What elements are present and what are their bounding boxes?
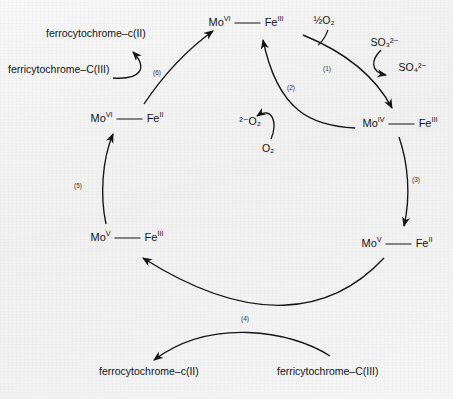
node-mo-symbol: Mo [362,117,377,129]
node-mo5-fe2: MoVFeII [362,238,433,249]
step-label-6: (6) [153,70,161,77]
arrow-step-4-cytochrome [154,332,330,360]
sulfite-label: SO₃²⁻ [371,37,400,48]
node-mo-oxidation: V [106,229,111,238]
node-mo5-fe3: MoVFeIII [90,232,163,243]
arrow-step-3 [399,137,408,226]
node-mo-oxidation: V [377,235,382,244]
arrow-step-5 [103,134,113,224]
node-mo-oxidation: IV [378,115,385,124]
node-mo6-fe3: MoVIFeIII [208,17,283,28]
step-label-3: (3) [412,177,420,184]
metal-bond [389,123,415,124]
half-oxygen-label: ½O₂ [314,15,335,26]
node-fe-symbol: Fe [147,112,160,124]
metal-bond [386,243,412,244]
node-mo-symbol: Mo [362,237,377,249]
ferricytochrome-C-III-bottom-label: ferricytochrome–C(III) [277,366,379,377]
node-fe-oxidation: III [431,115,437,124]
ferrocytochrome-c-II-top-label: ferrocytochrome–c(II) [46,28,146,39]
node-mo-symbol: Mo [208,16,223,28]
ferricytochrome-C-III-top-label: ferricytochrome–C(III) [8,64,110,75]
ferrocytochrome-c-II-bottom-label: ferrocytochrome–c(II) [99,366,199,377]
step-label-4: (4) [241,316,249,323]
step-label-1: (1) [323,66,331,73]
metal-bond [115,237,141,238]
diagram-canvas: MoVIFeIII MoIVFeIII MoVFeII MoVFeIII MoV… [0,0,453,399]
node-fe-oxidation: II [159,110,163,119]
metal-bond [235,22,261,23]
step-label-2: (2) [287,85,295,92]
arrow-step-6 [144,31,213,104]
arrow-step-2 [263,40,355,128]
node-mo-oxidation: VI [224,14,231,23]
arrow-step-4-enzyme [143,258,384,305]
node-fe-symbol: Fe [265,16,278,28]
node-fe-oxidation: III [157,229,163,238]
sulfate-label: SO₄²⁻ [399,62,428,73]
superoxide-label: ²⁻O₂ [239,116,261,127]
reaction-arrows [0,0,453,399]
node-fe-symbol: Fe [419,117,432,129]
metal-bond [117,118,143,119]
node-fe-symbol: Fe [145,231,158,243]
node-mo-symbol: Mo [90,112,105,124]
arrow-sulfite-to-sulfate [374,50,386,75]
arrow-ferri-to-ferro-top [113,52,141,78]
node-fe-symbol: Fe [416,237,429,249]
node-mo-symbol: Mo [90,231,105,243]
node-mo6-fe2: MoVIFeII [90,113,163,124]
node-mo-oxidation: VI [106,110,113,119]
step-label-5: (5) [74,183,82,190]
node-mo4-fe3: MoIVFeIII [362,118,437,129]
dioxygen-label: O₂ [262,143,274,154]
node-fe-oxidation: II [428,235,432,244]
node-fe-oxidation: III [277,14,283,23]
